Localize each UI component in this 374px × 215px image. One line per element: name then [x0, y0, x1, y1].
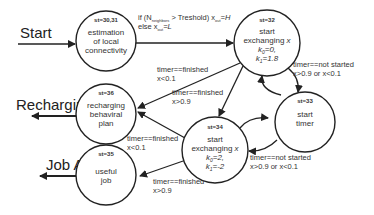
svg-text:timer: timer	[296, 119, 314, 128]
svg-text:x>0.9: x>0.9	[153, 186, 172, 195]
state-start-timer: st=33 start timer	[275, 92, 335, 152]
svg-text:connectivity: connectivity	[85, 46, 127, 55]
svg-text:exchanging x: exchanging x	[243, 36, 291, 45]
svg-text:start: start	[207, 135, 223, 144]
svg-text:job: job	[100, 176, 112, 185]
edge-estimation-to-exchanging: if (Nneighbors > Treshold) xout=H else x…	[136, 13, 233, 43]
svg-text:x>0.9: x>0.9	[172, 97, 191, 106]
svg-text:x>0.9 or x<0.1: x>0.9 or x<0.1	[293, 69, 341, 78]
svg-text:start: start	[297, 110, 313, 119]
svg-text:k1=-2: k1=-2	[206, 162, 225, 172]
svg-text:k1=1.8: k1=1.8	[256, 54, 279, 64]
svg-text:behaviral: behaviral	[90, 110, 123, 119]
start-transition: Start	[18, 24, 75, 44]
svg-text:estimation: estimation	[88, 28, 124, 37]
svg-text:of local: of local	[93, 37, 119, 46]
state-useful-job: st=35 useful job	[76, 145, 136, 205]
state-recharging-plan: st=36 recharging behaviral plan	[76, 84, 136, 144]
svg-text:timer==not started: timer==not started	[293, 60, 354, 69]
svg-text:timer==finished: timer==finished	[157, 65, 208, 74]
svg-text:st=34: st=34	[207, 124, 223, 130]
svg-text:useful: useful	[95, 167, 117, 176]
state-exchanging-34: st=34 start exchanging x k0=2, k1=-2	[182, 117, 248, 183]
svg-text:timer==not started: timer==not started	[250, 153, 311, 162]
svg-text:recharging: recharging	[87, 101, 125, 110]
svg-text:timer==finished: timer==finished	[127, 134, 178, 143]
svg-text:start: start	[259, 27, 275, 36]
state-estimation: st=30,31 estimation of local connectivit…	[76, 11, 136, 71]
svg-text:exchanging x: exchanging x	[191, 144, 239, 153]
svg-text:st=30,31: st=30,31	[94, 17, 119, 23]
svg-text:st=36: st=36	[98, 90, 114, 96]
svg-text:timer==finished: timer==finished	[172, 88, 223, 97]
svg-text:st=33: st=33	[297, 98, 313, 104]
svg-text:else xout=L: else xout=L	[138, 22, 172, 32]
svg-text:x<0.1: x<0.1	[127, 143, 146, 152]
svg-text:st=35: st=35	[98, 151, 114, 157]
svg-text:timer==finished: timer==finished	[153, 177, 204, 186]
state-diagram: Start if (Nneighbors > Treshold) xout=H …	[0, 0, 374, 215]
svg-text:st=32: st=32	[259, 17, 275, 23]
start-label: Start	[20, 24, 53, 41]
svg-text:x<0.1: x<0.1	[157, 74, 176, 83]
svg-text:x>0.9 or x<0.1: x>0.9 or x<0.1	[250, 162, 298, 171]
svg-text:plan: plan	[98, 119, 113, 128]
state-exchanging-32: st=32 start exchanging x k0=0, k1=1.8	[234, 10, 300, 76]
